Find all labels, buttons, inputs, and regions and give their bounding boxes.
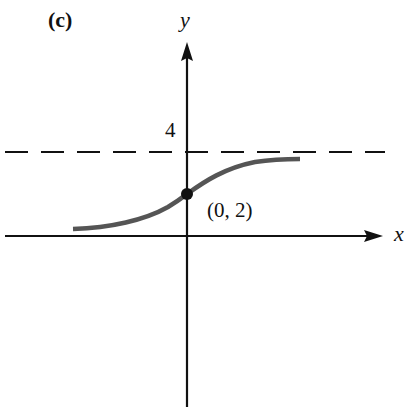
panel-label: (c) — [48, 7, 72, 33]
chart-canvas — [0, 0, 410, 407]
point-annotation: (0, 2) — [207, 198, 253, 223]
x-axis-label: x — [394, 221, 404, 247]
point-marker — [181, 188, 193, 200]
y-tick-label-4: 4 — [165, 118, 176, 143]
y-axis-label: y — [180, 7, 190, 33]
